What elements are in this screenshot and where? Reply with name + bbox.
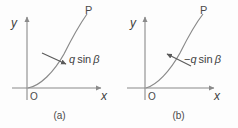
annotation-label: qsinβ (69, 54, 99, 65)
annotation-angle: β (215, 53, 221, 65)
panel-a-caption: (a) (0, 110, 119, 121)
origin-label: O (30, 92, 38, 102)
annotation-function: sin (77, 53, 91, 65)
x-axis-label: x (214, 90, 220, 102)
curve-endpoint-label: P (200, 5, 207, 16)
y-axis-label: y (130, 17, 136, 29)
annotation-quantity: q (190, 53, 196, 65)
panel-a: y x P O qsinβ (a) (0, 0, 119, 128)
origin-label: O (148, 92, 156, 102)
annotation-label: −qsinβ (184, 54, 221, 65)
panel-b-caption: (b) (119, 110, 238, 121)
curve-op (146, 14, 203, 88)
curve-op (28, 14, 87, 88)
annotation-quantity: q (69, 53, 75, 65)
y-axis-label: y (11, 17, 17, 29)
annotation-arrow (42, 53, 66, 64)
two-panel-curve-figure: y x P O qsinβ (a) (0, 0, 238, 128)
panel-b: y x P O −qsinβ (b) (119, 0, 238, 128)
annotation-angle: β (93, 53, 99, 65)
curve-endpoint-label: P (85, 5, 92, 16)
panel-a-graphic (0, 0, 119, 128)
annotation-function: sin (199, 53, 213, 65)
x-axis-label: x (101, 90, 107, 102)
